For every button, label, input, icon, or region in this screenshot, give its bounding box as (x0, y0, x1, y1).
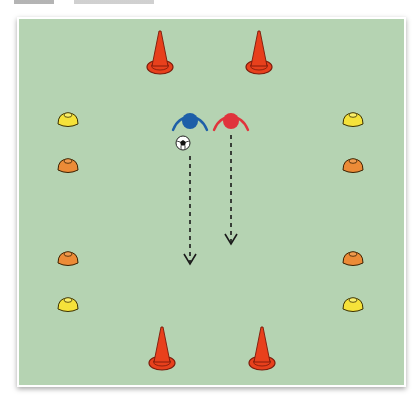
marker-yellow (343, 298, 363, 312)
soccer-ball-icon (176, 136, 190, 150)
marker-yellow (58, 113, 78, 127)
player-red (214, 113, 248, 130)
marker-orange (58, 252, 78, 266)
marker-yellow (58, 298, 78, 312)
marker-orange (343, 159, 363, 173)
cone-top-right (246, 31, 272, 74)
cone-bottom-left (149, 327, 175, 370)
marker-yellow (343, 113, 363, 127)
cone-bottom-right (249, 327, 275, 370)
path-red-player (225, 135, 237, 244)
cone-top-left (147, 31, 173, 74)
marker-orange (58, 159, 78, 173)
drill-diagram (0, 0, 417, 406)
player-blue (173, 113, 207, 130)
marker-orange (343, 252, 363, 266)
path-blue-player (184, 156, 196, 264)
